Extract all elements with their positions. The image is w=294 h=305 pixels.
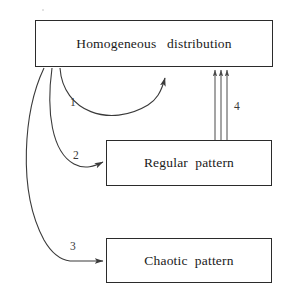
node-homogeneous-distribution[interactable]: Homogeneous distribution bbox=[35, 20, 273, 67]
edge-3-path bbox=[26, 68, 103, 261]
edge-1-path bbox=[60, 68, 165, 115]
node-chaotic-pattern-label: Chaotic pattern bbox=[144, 254, 233, 268]
node-homogeneous-distribution-label: Homogeneous distribution bbox=[76, 37, 232, 51]
node-chaotic-pattern[interactable]: Chaotic pattern bbox=[106, 238, 272, 283]
edge-4-label: 4 bbox=[234, 101, 240, 113]
flow-diagram: Homogeneous distribution Regular pattern… bbox=[0, 0, 294, 305]
node-regular-pattern-label: Regular pattern bbox=[144, 156, 234, 170]
node-regular-pattern[interactable]: Regular pattern bbox=[106, 140, 272, 186]
edge-1-label: 1 bbox=[70, 97, 76, 109]
edge-2-label: 2 bbox=[73, 150, 79, 162]
edge-3-label: 3 bbox=[70, 241, 76, 253]
